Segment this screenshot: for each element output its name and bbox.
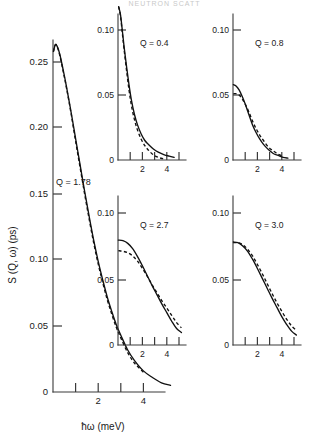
y-tick-label-q30-2: 0 (224, 340, 229, 350)
y-tick-label-q08-2: 0 (224, 155, 229, 165)
curve-q08-dashed (233, 94, 283, 156)
panel-label-q04: Q = 0.4 (140, 38, 169, 48)
y-tick-label-q08-1: 0.05 (212, 90, 229, 100)
y-axis-title: S (Q, ω) (ps) (7, 226, 18, 283)
y-tick-label-main-0: 0.25 (30, 56, 49, 67)
y-tick-label-q27-0: 0.10 (97, 208, 114, 218)
curve-q27-solid (118, 240, 181, 332)
y-tick-label-q04-1: 0.05 (97, 90, 114, 100)
curve-q27-dashed (118, 251, 181, 328)
y-tick-label-q27-2: 0 (109, 340, 114, 350)
panel-q08: 0.100.05024Q = 0.8 (212, 14, 301, 174)
x-tick-label-q27-4: 4 (164, 349, 169, 359)
curve-q04-solid (119, 7, 175, 158)
curve-q30-solid (233, 242, 296, 335)
y-tick-label-main-1: 0.20 (30, 121, 49, 132)
panel-label-q08: Q = 0.8 (255, 38, 284, 48)
y-tick-label-q04-2: 0 (109, 155, 114, 165)
curve-q08-solid (233, 85, 288, 158)
x-axis-title: ħω (meV) (81, 421, 124, 432)
panel-label-main: Q = 1.78 (56, 177, 91, 187)
y-tick-label-main-3: 0.10 (30, 253, 49, 264)
x-tick-label-q30-2: 2 (255, 349, 260, 359)
y-tick-label-q30-0: 0.10 (212, 208, 229, 218)
x-tick-label-q08-2: 2 (255, 164, 260, 174)
panel-label-q27: Q = 2.7 (140, 220, 169, 230)
y-tick-label-q08-0: 0.10 (212, 25, 229, 35)
x-tick-label-q04-2: 2 (140, 164, 145, 174)
curve-q30-dashed (233, 243, 296, 331)
panel-q27: 0.100.05024Q = 2.7 (97, 196, 186, 359)
x-tick-label-main-2: 2 (96, 395, 101, 406)
panel-q30: 0.100.05024Q = 3.0 (212, 196, 301, 359)
y-tick-label-q27-1: 0.05 (97, 275, 114, 285)
x-tick-label-main-4: 4 (141, 395, 146, 406)
y-tick-label-main-2: 0.15 (30, 188, 49, 199)
y-tick-label-q30-1: 0.05 (212, 275, 229, 285)
x-tick-label-q27-2: 2 (140, 349, 145, 359)
main-axis-titles: ħω (meV)S (Q, ω) (ps) (7, 226, 125, 432)
x-tick-label-q08-4: 4 (279, 164, 284, 174)
y-tick-label-main-4: 0.05 (30, 320, 49, 331)
x-tick-label-q04-4: 4 (164, 164, 169, 174)
scientific-figure: 0.250.200.150.100.05024Q = 1.780.100.050… (0, 0, 329, 436)
panel-q04: 0.100.05024Q = 0.4 (97, 7, 186, 174)
y-tick-label-main-5: 0 (43, 386, 48, 397)
panel-label-q30: Q = 3.0 (255, 220, 284, 230)
y-tick-label-q04-0: 0.10 (97, 25, 114, 35)
x-tick-label-q30-4: 4 (279, 349, 284, 359)
figure-canvas: 0.250.200.150.100.05024Q = 1.780.100.050… (0, 0, 329, 436)
